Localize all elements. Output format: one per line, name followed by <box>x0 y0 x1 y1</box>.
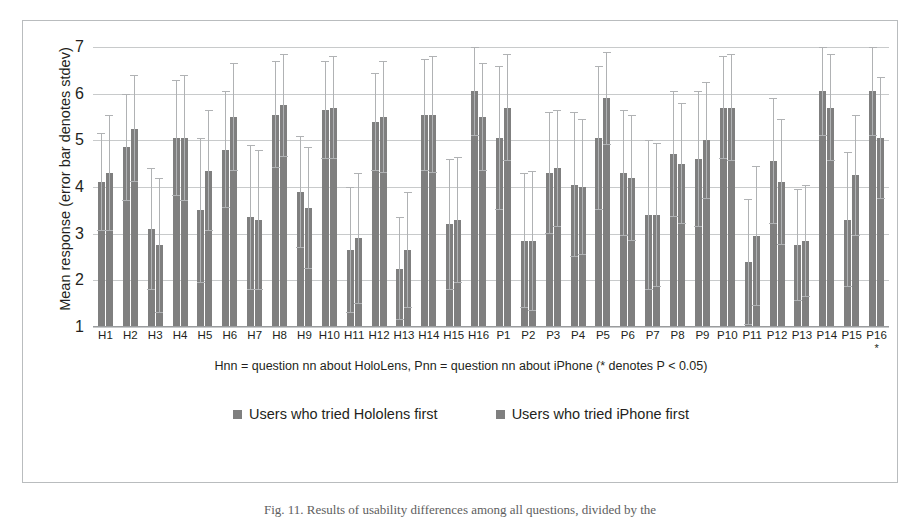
error-bar <box>325 61 326 159</box>
error-bar <box>582 119 583 254</box>
error-bar <box>308 147 309 268</box>
x-axis-tick-label: H16 <box>466 329 491 341</box>
bar-slot <box>255 47 262 327</box>
error-bar <box>432 56 433 173</box>
bar-slot <box>454 47 461 327</box>
bar-group <box>342 47 367 327</box>
bar-slot <box>529 47 536 327</box>
bar-slot <box>131 47 138 327</box>
bar-slot <box>628 47 635 327</box>
error-bar <box>101 133 102 231</box>
bar-group <box>143 47 168 327</box>
error-bar <box>606 52 607 145</box>
bar-group <box>441 47 466 327</box>
bar-group <box>790 47 815 327</box>
legend-item[interactable]: Users who tried Hololens first <box>233 406 438 422</box>
bar-slot <box>720 47 727 327</box>
error-bar <box>822 47 823 136</box>
bar-slot <box>852 47 859 327</box>
bar-slot <box>869 47 876 327</box>
bar-slot <box>173 47 180 327</box>
x-axis-tick-label: P1 <box>491 329 516 341</box>
error-bar <box>524 173 525 308</box>
error-bar <box>574 112 575 257</box>
error-bar <box>176 80 177 197</box>
error-bar <box>275 61 276 168</box>
x-axis-tick-label: P15 <box>839 329 864 341</box>
error-bar <box>134 75 135 182</box>
legend-item[interactable]: Users who tried iPhone first <box>496 406 689 422</box>
x-axis-tick-label: P4 <box>566 329 591 341</box>
x-axis-tick-label: P13 <box>790 329 815 341</box>
bar-slot <box>521 47 528 327</box>
y-axis-tick-label: 3 <box>75 226 84 242</box>
bar-group <box>193 47 218 327</box>
x-axis-tick-label: P7 <box>640 329 665 341</box>
x-axis-tick-label: H4 <box>168 329 193 341</box>
bar-slot <box>579 47 586 327</box>
x-axis-tick-label: P6 <box>615 329 640 341</box>
bar-slot <box>794 47 801 327</box>
bar-slot <box>355 47 362 327</box>
bar-groups <box>93 47 889 327</box>
x-axis-line <box>93 326 889 327</box>
error-bar <box>648 140 649 289</box>
x-axis-tick-label: P5 <box>591 329 616 341</box>
bar-slot <box>546 47 553 327</box>
bar-slot <box>305 47 312 327</box>
error-bar <box>847 152 848 287</box>
error-bar <box>507 54 508 161</box>
error-bar <box>723 56 724 159</box>
bar-group <box>367 47 392 327</box>
x-axis-tick-label: H12 <box>367 329 392 341</box>
error-bar <box>830 54 831 161</box>
bar-group <box>541 47 566 327</box>
bar-slot <box>330 47 337 327</box>
x-axis-tick-label: P9 <box>690 329 715 341</box>
bar-slot <box>280 47 287 327</box>
bar-group <box>466 47 491 327</box>
bar-slot <box>653 47 660 327</box>
bar-slot <box>446 47 453 327</box>
error-bar <box>109 115 110 232</box>
error-bar <box>631 115 632 241</box>
x-axis-tick-label: P10 <box>715 329 740 341</box>
bar-group <box>118 47 143 327</box>
bar-slot <box>181 47 188 327</box>
bar-group <box>491 47 516 327</box>
x-axis-tick-label: H10 <box>317 329 342 341</box>
error-bar <box>557 110 558 227</box>
bar-group <box>392 47 417 327</box>
bar-slot <box>877 47 884 327</box>
bar-slot <box>396 47 403 327</box>
x-axis-tick-label: P14 <box>814 329 839 341</box>
error-bar <box>333 56 334 159</box>
x-axis-tick-label: P16* <box>864 329 889 341</box>
bar-group <box>591 47 616 327</box>
bar-group <box>839 47 864 327</box>
bar-slot <box>745 47 752 327</box>
y-axis-tick-label: 5 <box>75 132 84 148</box>
error-bar <box>880 77 881 198</box>
bar-group <box>690 47 715 327</box>
bar-group <box>715 47 740 327</box>
bar-group <box>242 47 267 327</box>
gridline <box>93 327 889 328</box>
error-bar <box>350 187 351 313</box>
x-axis-tick-label: H6 <box>217 329 242 341</box>
bar-slot <box>778 47 785 327</box>
error-bar <box>250 145 251 290</box>
legend-label: Users who tried iPhone first <box>512 406 689 422</box>
legend-swatch-icon <box>233 410 242 419</box>
x-axis-tick-label: P8 <box>665 329 690 341</box>
error-bar <box>797 189 798 301</box>
bar-slot <box>230 47 237 327</box>
bar-slot <box>247 47 254 327</box>
error-bar <box>184 75 185 201</box>
bar-slot <box>148 47 155 327</box>
error-bar <box>126 94 127 201</box>
y-axis-tick-label: 1 <box>75 319 84 335</box>
bar-group <box>516 47 541 327</box>
y-axis-tick-label: 2 <box>75 272 84 288</box>
bar-slot <box>222 47 229 327</box>
